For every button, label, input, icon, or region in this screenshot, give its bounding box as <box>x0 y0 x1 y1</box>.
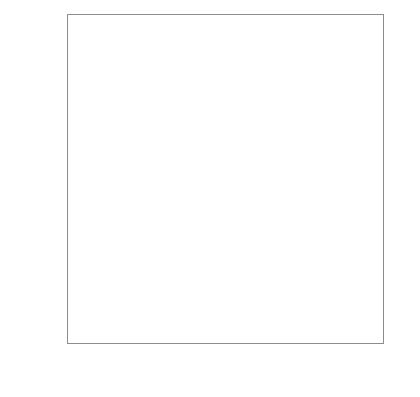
plot-area-border <box>68 15 384 344</box>
pulse-rate-chart <box>0 0 420 397</box>
chart-canvas <box>0 0 420 397</box>
